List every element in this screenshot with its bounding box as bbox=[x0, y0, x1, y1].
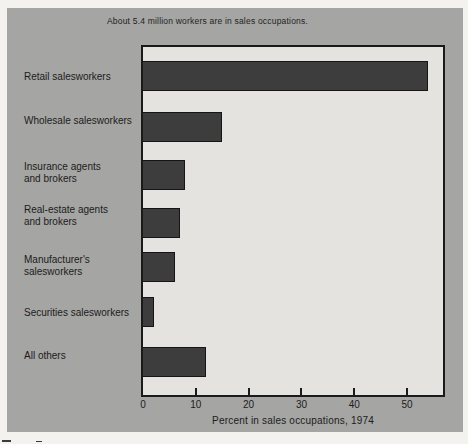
scanned-figure-page: About 5.4 million workers are in sales o… bbox=[0, 0, 468, 444]
category-label-insurance-agents-and-brokers: Insurance agents and brokers bbox=[24, 161, 144, 185]
x-tick-label-40: 40 bbox=[342, 399, 366, 410]
chart-title: About 5.4 million workers are in sales o… bbox=[20, 16, 395, 26]
x-tick-label-50: 50 bbox=[395, 399, 419, 410]
bar-securities-salesworkers bbox=[143, 297, 154, 327]
bar-all-others bbox=[143, 347, 206, 377]
x-tick-label-30: 30 bbox=[289, 399, 313, 410]
x-tick-label-0: 0 bbox=[131, 399, 155, 410]
x-tick-20 bbox=[248, 388, 250, 395]
category-label-all-others: All others bbox=[24, 350, 144, 362]
bar-real-estate-agents-and-brokers bbox=[143, 208, 180, 238]
cropped-source-text-fragment bbox=[2, 440, 11, 442]
category-label-wholesale-salesworkers: Wholesale salesworkers bbox=[24, 115, 144, 127]
bar-retail-salesworkers bbox=[143, 61, 428, 91]
bar-insurance-agents-and-brokers bbox=[143, 160, 185, 190]
plot-area bbox=[141, 45, 445, 397]
x-tick-50 bbox=[406, 388, 408, 395]
x-axis-title: Percent in sales occupations, 1974 bbox=[143, 415, 443, 426]
cropped-source-text-fragment bbox=[36, 441, 42, 442]
category-label-manufacturer-s-salesworkers: Manufacturer's salesworkers bbox=[24, 254, 144, 278]
category-label-real-estate-agents-and-brokers: Real-estate agents and brokers bbox=[24, 204, 144, 228]
x-tick-40 bbox=[353, 388, 355, 395]
x-tick-10 bbox=[195, 388, 197, 395]
category-label-retail-salesworkers: Retail salesworkers bbox=[24, 71, 144, 83]
x-tick-label-10: 10 bbox=[184, 399, 208, 410]
x-tick-label-20: 20 bbox=[237, 399, 261, 410]
x-tick-30 bbox=[300, 388, 302, 395]
bar-manufacturer-s-salesworkers bbox=[143, 252, 175, 282]
bar-wholesale-salesworkers bbox=[143, 112, 222, 142]
category-label-securities-salesworkers: Securities salesworkers bbox=[24, 307, 144, 319]
